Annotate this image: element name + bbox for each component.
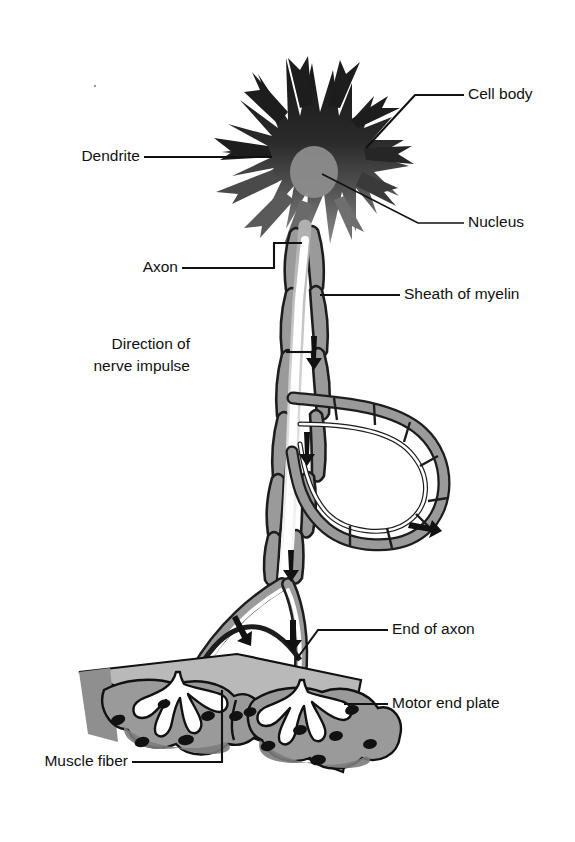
neuron-diagram: Cell body Dendrite Nucleus Axon Sheath o… bbox=[0, 0, 575, 842]
label-direction-of-nerve-impulse-line1: Direction of bbox=[112, 335, 191, 352]
label-motor-end-plate: Motor end plate bbox=[392, 694, 500, 711]
nucleus bbox=[290, 146, 338, 198]
label-axon: Axon bbox=[143, 258, 178, 275]
label-sheath-of-myelin: Sheath of myelin bbox=[404, 285, 519, 302]
label-muscle-fiber: Muscle fiber bbox=[44, 752, 128, 769]
label-nucleus: Nucleus bbox=[468, 213, 524, 230]
label-cell-body: Cell body bbox=[468, 85, 533, 102]
label-dendrite: Dendrite bbox=[81, 147, 140, 164]
label-end-of-axon: End of axon bbox=[392, 620, 475, 637]
label-direction-of-nerve-impulse-line2: nerve impulse bbox=[94, 357, 191, 374]
scan-speck bbox=[94, 85, 96, 87]
